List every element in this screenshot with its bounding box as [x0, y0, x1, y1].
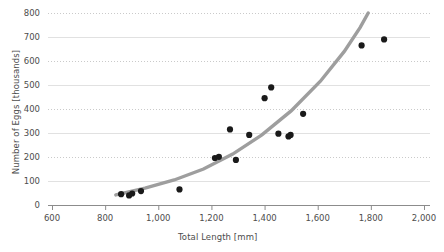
x-tick-label: 600 — [32, 213, 72, 223]
x-tick-label: 1,600 — [298, 213, 338, 223]
data-point — [246, 132, 252, 138]
data-point — [275, 131, 281, 137]
data-point — [268, 84, 274, 90]
gridlines — [48, 14, 430, 182]
trend-line — [116, 13, 368, 195]
data-point — [138, 188, 144, 194]
data-point — [233, 157, 239, 163]
data-points — [118, 36, 387, 198]
x-tick-label: 1,000 — [138, 213, 178, 223]
y-tick-label: 800 — [8, 8, 40, 18]
x-tick-label: 1,400 — [245, 213, 285, 223]
x-tick-label: 2,000 — [404, 213, 444, 223]
y-tick-label: 700 — [8, 32, 40, 42]
data-point — [227, 126, 233, 132]
x-tick-label: 1,200 — [191, 213, 231, 223]
data-point — [381, 36, 387, 42]
data-point — [118, 191, 124, 197]
x-tick-label: 800 — [85, 213, 125, 223]
data-point — [288, 132, 294, 138]
data-point — [262, 95, 268, 101]
data-point — [129, 190, 135, 196]
data-point — [176, 186, 182, 192]
x-axis-title: Total Length [mm] — [178, 232, 257, 242]
data-point — [216, 154, 222, 160]
scatter-chart: 0100200300400500600700800 6008001,0001,2… — [0, 0, 444, 252]
y-axis-title: Number of Eggs [thousands] — [11, 42, 21, 182]
x-tick-label: 1,800 — [351, 213, 391, 223]
y-tick-label: 0 — [8, 200, 40, 210]
data-point — [359, 42, 365, 48]
data-point — [300, 111, 306, 117]
